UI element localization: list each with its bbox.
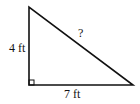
horizontal-leg-label: 7 ft xyxy=(64,87,81,101)
hypotenuse-label: ? xyxy=(78,26,83,40)
triangle-diagram: 4 ft ? 7 ft xyxy=(0,0,140,104)
right-triangle xyxy=(29,7,133,85)
vertical-leg-label: 4 ft xyxy=(9,41,26,55)
